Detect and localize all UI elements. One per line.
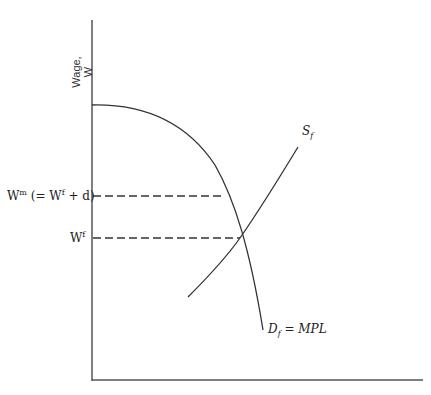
demand-label-rest: = MPL	[281, 322, 327, 336]
demand-label: Df = MPL	[268, 322, 327, 338]
wm-label-sup: m	[19, 188, 27, 197]
y-axis-label: Wage, W	[70, 50, 94, 94]
wm-label-rest2: + d)	[65, 189, 95, 203]
supply-label-main: S	[302, 124, 310, 138]
supply-label-sub: f	[310, 131, 313, 140]
wm-label-rest1: (= W	[27, 189, 62, 203]
wm-label-main: W	[7, 189, 19, 203]
demand-curve	[92, 105, 263, 330]
wm-label: Wm (= Wf + d)	[7, 188, 95, 203]
supply-curve	[188, 147, 298, 297]
wf-label-sup: f	[82, 230, 85, 239]
supply-label: Sf	[302, 124, 313, 140]
wf-label-main: W	[70, 231, 82, 245]
wf-label: Wf	[70, 230, 85, 245]
demand-label-main: D	[268, 322, 278, 336]
